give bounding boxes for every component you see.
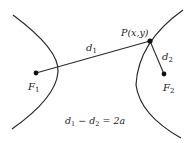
- hyperbola-diagram: F1 F2 P(x,y) d1 d2 d1 − d2 = 2a: [0, 0, 189, 143]
- focus-f1-label: F1: [27, 81, 39, 94]
- segment-d1-label: d1: [86, 42, 97, 55]
- segment-d2-label: d2: [162, 51, 173, 64]
- equation-label: d1 − d2 = 2a: [65, 115, 126, 128]
- point-p-dot: [147, 38, 152, 43]
- segment-d1: [36, 41, 150, 73]
- focus-f2-label: F2: [162, 82, 174, 95]
- focus-f2-dot: [162, 72, 167, 77]
- point-p-label: P(x,y): [120, 27, 149, 38]
- focus-f1-dot: [34, 71, 39, 76]
